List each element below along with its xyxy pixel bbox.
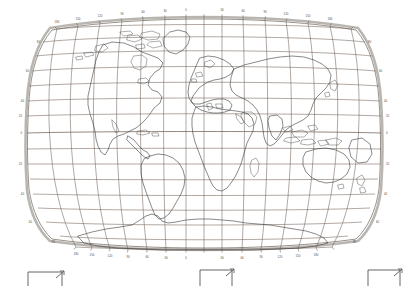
lon-label: 60: [141, 10, 145, 14]
lon-label: 0: [185, 256, 187, 260]
lat-label: 20: [19, 114, 23, 118]
legend-bracket-center[interactable]: [200, 269, 234, 286]
lon-label: 150: [90, 253, 95, 257]
lat-label: 20: [386, 114, 390, 118]
legend-bracket-right[interactable]: [368, 269, 402, 286]
lon-label: 30: [163, 9, 167, 13]
lon-label: 90: [126, 255, 130, 259]
lat-label: 80: [368, 40, 372, 44]
lat-label: 80: [37, 40, 41, 44]
lon-label: 180: [314, 253, 319, 257]
lat-label: 60: [29, 220, 33, 224]
lon-label: 120: [278, 255, 283, 259]
longitude-labels-bottom: 180 150 120 90 60 30 0 30 60 90 120 150 …: [74, 252, 319, 260]
lon-label: 180: [55, 20, 60, 24]
lon-label: 90: [259, 255, 263, 259]
lon-label: 0: [185, 8, 187, 12]
lon-label: 30: [164, 256, 168, 260]
lon-label: 150: [76, 17, 81, 21]
lon-label: 120: [98, 14, 103, 18]
lat-label: 40: [384, 192, 388, 196]
legend-bracket-left[interactable]: [28, 271, 64, 286]
lon-label: 60: [241, 9, 245, 13]
lat-label: 0: [386, 131, 388, 135]
lat-label: 40: [384, 99, 388, 103]
lat-label: 80: [52, 240, 56, 244]
lon-label: 150: [306, 14, 311, 18]
lon-label: 120: [284, 12, 289, 16]
lat-label: 20: [386, 162, 390, 166]
lat-label: 60: [379, 69, 383, 73]
lon-label: 60: [240, 256, 244, 260]
lon-label: 60: [145, 255, 149, 259]
lon-label: 150: [296, 254, 301, 258]
lat-label: 40: [21, 99, 25, 103]
lon-label: 90: [120, 12, 124, 16]
lat-label: 60: [26, 69, 30, 73]
lon-label: 120: [108, 254, 113, 258]
lon-label: 30: [220, 256, 224, 260]
world-map: 180 150 120 90 60 30 0 30 60 90 120 150 …: [0, 0, 408, 286]
lat-label: 60: [376, 220, 380, 224]
lon-label: 180: [328, 17, 333, 21]
lat-label: 80: [353, 240, 357, 244]
lon-label: 180: [74, 252, 79, 256]
coastlines: [76, 30, 372, 250]
lon-label: 30: [220, 8, 224, 12]
lat-label: 20: [19, 162, 23, 166]
lon-label: 90: [263, 10, 267, 14]
lat-label: 40: [21, 192, 25, 196]
lat-label: 0: [20, 131, 22, 135]
